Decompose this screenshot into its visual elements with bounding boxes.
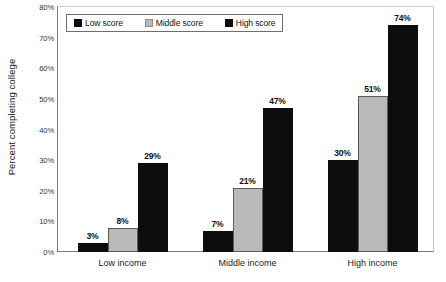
x-axis-category-label: Middle income (218, 258, 276, 268)
bar-group: 3%8%29% (78, 7, 168, 252)
bar-group: 30%51%74% (328, 7, 418, 252)
bar-value-label: 51% (364, 84, 380, 94)
bar-high-low-income[interactable] (138, 163, 168, 252)
y-axis-tick-label: 30% (39, 156, 54, 165)
y-axis-tick-label: 0% (43, 248, 54, 257)
bar-value-label: 47% (269, 96, 285, 106)
y-axis-tick-label: 50% (39, 94, 54, 103)
legend-item-low-score[interactable]: Low score (74, 18, 123, 28)
bar-value-label: 7% (212, 219, 224, 229)
bar-value-label: 29% (144, 151, 160, 161)
bar-value-label: 21% (239, 176, 255, 186)
x-axis-category-labels: Low incomeMiddle incomeHigh income (58, 258, 433, 274)
legend-swatch-icon (145, 19, 153, 27)
bar-middle-high-income[interactable] (358, 96, 388, 252)
y-axis-tick-label: 60% (39, 64, 54, 73)
bar-value-label: 3% (87, 231, 99, 241)
y-axis-tick-label: 20% (39, 186, 54, 195)
bars-layer: 3%8%29%7%21%47%30%51%74% (58, 7, 433, 252)
bar-middle-middle-income[interactable] (233, 188, 263, 252)
x-axis-category-label: High income (347, 258, 397, 268)
x-axis-category-label: Low income (98, 258, 146, 268)
bar-high-high-income[interactable] (388, 25, 418, 252)
chart-legend: Low scoreMiddle scoreHigh score (66, 14, 283, 32)
legend-label: Middle score (156, 18, 203, 28)
bar-middle-low-income[interactable] (108, 228, 138, 253)
y-axis-title: Percent completing college (2, 0, 20, 258)
legend-item-middle-score[interactable]: Middle score (145, 18, 203, 28)
legend-label: Low score (85, 18, 123, 28)
y-axis-tick-label: 70% (39, 33, 54, 42)
bar-value-label: 74% (394, 13, 410, 23)
y-axis-tick-label: 10% (39, 217, 54, 226)
bar-low-low-income[interactable] (78, 243, 108, 252)
legend-item-high-score[interactable]: High score (225, 18, 276, 28)
bar-high-middle-income[interactable] (263, 108, 293, 252)
bar-value-label: 30% (334, 148, 350, 158)
legend-label: High score (236, 18, 276, 28)
bar-low-middle-income[interactable] (203, 231, 233, 252)
y-axis-tick-labels: 0%10%20%30%40%50%60%70%80% (24, 0, 54, 282)
y-axis-tick-label: 40% (39, 125, 54, 134)
legend-swatch-icon (74, 19, 82, 27)
bar-value-label: 8% (117, 216, 129, 226)
y-axis-tick-label: 80% (39, 3, 54, 12)
legend-swatch-icon (225, 19, 233, 27)
bar-low-high-income[interactable] (328, 160, 358, 252)
bar-group: 7%21%47% (203, 7, 293, 252)
bar-chart: Percent completing college 0%10%20%30%40… (0, 0, 446, 282)
